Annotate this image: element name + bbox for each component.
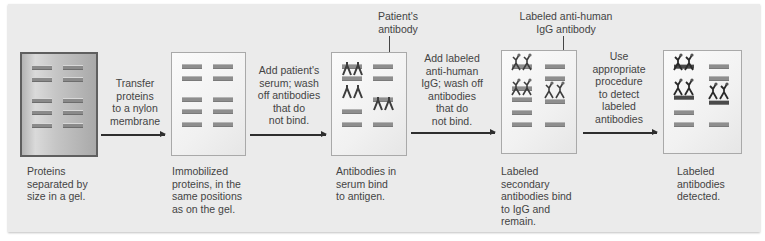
step-line: anti-human [414, 65, 490, 78]
protein-band [545, 64, 565, 69]
step-line: proteins [104, 90, 166, 103]
gel-panel [20, 52, 98, 157]
caption-line: to antigen. [336, 190, 396, 203]
caption-line: antibodies [677, 178, 725, 191]
protein-band [182, 64, 202, 69]
step-line: IgG; wash off [414, 77, 490, 90]
step-line: not bind. [252, 114, 326, 127]
protein-band [709, 64, 729, 69]
step-line: Add labeled [414, 52, 490, 65]
step-line: off antibodies [252, 89, 326, 102]
step-line: Transfer [104, 77, 166, 90]
protein-band [63, 98, 83, 103]
secondary-panel [501, 50, 577, 154]
protein-band [373, 122, 393, 127]
protein-band [545, 99, 565, 104]
caption-line: separated by [27, 178, 88, 191]
callout-line: Labeled anti-human [510, 10, 622, 23]
step-add-serum: Add patient's serum; wash off antibodies… [252, 64, 326, 127]
protein-band [213, 76, 233, 81]
antibody-icon [372, 96, 396, 111]
labeled-antibody-icon [510, 78, 536, 96]
protein-band [63, 110, 83, 115]
step-line: appropriate [584, 63, 654, 76]
callout-line: antibody [368, 23, 428, 36]
step-line: membrane [104, 115, 166, 128]
step-line: Add patient's [252, 64, 326, 77]
protein-band [342, 109, 362, 114]
serum-caption: Antibodies in serum bind to antigen. [336, 165, 396, 203]
caption-line: antibodies bind [501, 190, 572, 203]
protein-band [709, 76, 729, 81]
membrane-panel [171, 52, 246, 156]
step-line: not bind. [414, 115, 490, 128]
caption-line: detected. [677, 190, 725, 203]
step-line: that do [252, 102, 326, 115]
protein-band [512, 97, 532, 102]
step-line: to detect [584, 88, 654, 101]
callout-patient-antibody: Patient's antibody [368, 10, 428, 35]
protein-band [32, 123, 52, 128]
arrow-step-3 [411, 132, 495, 134]
step-transfer: Transfer proteins to a nylon membrane [104, 77, 166, 127]
protein-band [674, 110, 694, 115]
caption-line: Labeled [677, 165, 725, 178]
protein-band [373, 76, 393, 81]
protein-band [674, 122, 694, 127]
protein-band [709, 122, 729, 127]
protein-band [63, 123, 83, 128]
protein-band [182, 76, 202, 81]
arrow-step-2 [250, 134, 326, 136]
protein-band [512, 122, 532, 127]
callout-labeled-igg: Labeled anti-human IgG antibody [510, 10, 622, 35]
detected-band [709, 100, 729, 105]
arrow-step-4 [583, 132, 657, 134]
caption-line: as on the gel. [172, 203, 242, 216]
protein-band [342, 76, 362, 81]
step-line: antibodies [414, 90, 490, 103]
antibody-icon [341, 61, 365, 76]
caption-line: proteins, in the [172, 178, 242, 191]
caption-line: serum bind [336, 178, 396, 191]
detected-panel [663, 50, 742, 154]
step-line: labeled [584, 100, 654, 113]
caption-line: to IgG and [501, 203, 572, 216]
step-detect: Use appropriate procedure to detect labe… [584, 50, 654, 126]
protein-band [373, 64, 393, 69]
detected-antibody-icon [672, 53, 698, 71]
labeled-antibody-icon [543, 81, 569, 99]
caption-line: Proteins [27, 165, 88, 178]
caption-line: Antibodies in [336, 165, 396, 178]
callout-line: Patient's [368, 10, 428, 23]
gel-caption: Proteins separated by size in a gel. [27, 165, 88, 203]
step-line: Use [584, 50, 654, 63]
protein-band [213, 109, 233, 114]
protein-band [342, 122, 362, 127]
protein-band [32, 65, 52, 70]
protein-band [182, 122, 202, 127]
secondary-caption: Labeled secondary antibodies bind to IgG… [501, 165, 572, 228]
step-line: antibodies [584, 113, 654, 126]
protein-band [32, 77, 52, 82]
step-line: to a nylon [104, 102, 166, 115]
arrow-step-1 [101, 134, 165, 136]
detected-antibody-icon [707, 82, 733, 100]
protein-band [63, 65, 83, 70]
protein-band [545, 122, 565, 127]
callout-line: IgG antibody [510, 23, 622, 36]
detected-antibody-icon [672, 78, 698, 96]
step-line: procedure [584, 75, 654, 88]
protein-band [213, 122, 233, 127]
antibody-icon [341, 84, 365, 99]
protein-band [63, 77, 83, 82]
membrane-caption: Immobilized proteins, in the same positi… [172, 165, 242, 215]
protein-band [213, 64, 233, 69]
caption-line: size in a gel. [27, 190, 88, 203]
protein-band [213, 97, 233, 102]
caption-line: secondary [501, 178, 572, 191]
protein-band [512, 110, 532, 115]
serum-panel [331, 52, 407, 156]
caption-line: same positions [172, 190, 242, 203]
protein-band [182, 109, 202, 114]
step-line: that do [414, 102, 490, 115]
